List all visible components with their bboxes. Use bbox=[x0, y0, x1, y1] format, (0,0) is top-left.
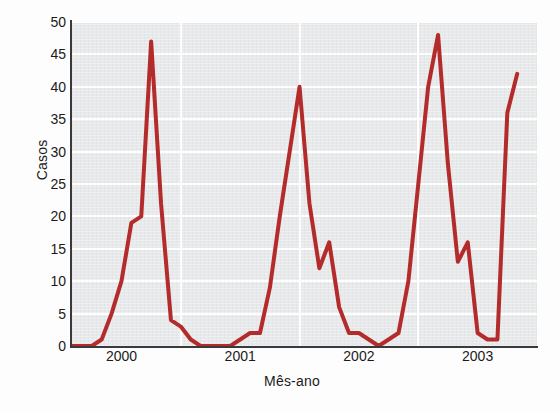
x-axis-label: Mês-ano bbox=[232, 373, 352, 389]
x-tick-label: 2002 bbox=[329, 349, 389, 363]
chart-container: Casos 05101520253035404550 2000200120022… bbox=[0, 0, 560, 411]
x-tick-label: 2001 bbox=[210, 349, 270, 363]
data-series-line bbox=[72, 22, 537, 346]
plot-area bbox=[72, 22, 537, 346]
series-polyline bbox=[72, 35, 517, 346]
x-tick-label: 2003 bbox=[448, 349, 508, 363]
x-tick-label: 2000 bbox=[91, 349, 151, 363]
